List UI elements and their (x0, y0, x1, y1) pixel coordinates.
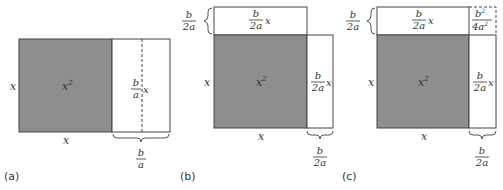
svg-text:b: b (479, 145, 485, 156)
svg-text:2a: 2a (313, 157, 326, 168)
panel-a: x2 x x b a x b a (a) (4, 39, 170, 183)
top-brace-label: b 2a (182, 9, 196, 32)
panel-b: x2 x x b 2a x b 2a b 2a x b 2a (b) (180, 7, 333, 183)
svg-text:b: b (133, 77, 139, 88)
bottom-brace-label: b a (136, 147, 146, 170)
top-left-brace (367, 8, 375, 34)
bottom-side-label: x (258, 130, 265, 143)
bottom-side-label: x (421, 130, 428, 143)
svg-text:x: x (428, 15, 434, 26)
svg-text:4a2: 4a2 (471, 20, 488, 32)
bottom-brace (469, 131, 496, 139)
top-left-brace (204, 8, 212, 34)
panel-c: x2 x x b 2a x b2 4a2 b 2a b 2a x b (342, 7, 496, 183)
svg-text:x: x (143, 84, 149, 95)
svg-text:a: a (133, 89, 139, 100)
svg-text:x: x (265, 15, 271, 26)
svg-text:b: b (350, 9, 356, 20)
svg-text:b2: b2 (475, 7, 485, 19)
svg-text:b: b (138, 147, 144, 158)
svg-text:b: b (477, 70, 483, 81)
panel-label-c: (c) (342, 170, 357, 183)
bottom-brace-label: b 2a (313, 145, 327, 168)
svg-text:x: x (488, 77, 494, 88)
svg-text:2a: 2a (473, 82, 486, 93)
svg-text:b: b (315, 70, 321, 81)
svg-text:2a: 2a (249, 20, 262, 31)
svg-text:b: b (317, 145, 323, 156)
top-brace-label: b 2a (346, 9, 360, 32)
svg-text:2a: 2a (182, 21, 195, 32)
panel-label-a: (a) (4, 170, 19, 183)
bottom-brace (113, 134, 169, 142)
svg-text:x: x (326, 77, 332, 88)
bottom-side-label: x (63, 134, 70, 147)
svg-text:2a: 2a (412, 20, 425, 31)
left-side-label: x (368, 76, 375, 89)
svg-text:2a: 2a (346, 21, 359, 32)
svg-text:2a: 2a (475, 157, 488, 168)
left-side-label: x (204, 76, 211, 89)
svg-text:b: b (416, 8, 422, 19)
corner-label: b2 4a2 (471, 7, 492, 32)
left-side-label: x (10, 80, 17, 93)
right-rectangle (112, 39, 170, 132)
bottom-brace-label: b 2a (475, 145, 489, 168)
svg-text:b: b (253, 8, 259, 19)
svg-text:2a: 2a (311, 82, 324, 93)
panel-label-b: (b) (180, 170, 196, 183)
svg-text:a: a (138, 159, 144, 170)
completing-the-square-diagram: x2 x x b a x b a (a) x2 x x b 2a x (0, 0, 503, 190)
bottom-brace (307, 131, 333, 139)
svg-text:b: b (186, 9, 192, 20)
